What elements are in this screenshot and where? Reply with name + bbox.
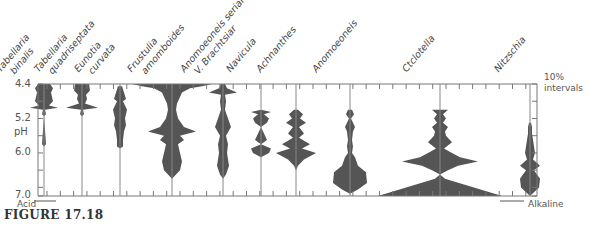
y-tick-6.0: 6.0 <box>15 146 31 157</box>
y-tick-5.2: 5.2 <box>15 112 31 123</box>
alkaline-label: Alkaline <box>528 199 563 209</box>
y-tick-4.4: 4.4 <box>15 78 31 89</box>
figure-caption: FIGURE 17.18 <box>4 208 103 222</box>
interval-note-line1: 10% <box>544 72 564 83</box>
y-axis-label: pH <box>14 126 28 137</box>
interval-note-line2: intervals <box>544 83 583 94</box>
